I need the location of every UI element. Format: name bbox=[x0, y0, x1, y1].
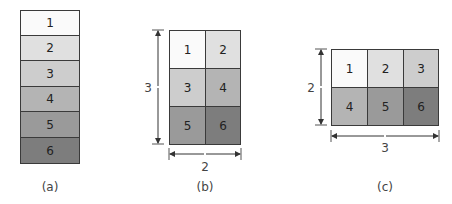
cell-b-3: 3 bbox=[169, 68, 206, 107]
cell-a-3: 3 bbox=[20, 60, 80, 87]
cell-a-5: 5 bbox=[20, 111, 80, 138]
cell-c-6: 6 bbox=[403, 87, 439, 126]
height-label-c: 2 bbox=[307, 81, 315, 95]
cell-b-2: 2 bbox=[205, 30, 241, 69]
cell-a-1: 1 bbox=[20, 10, 80, 36]
cell-b-1: 1 bbox=[169, 30, 206, 69]
width-label-b: 2 bbox=[201, 160, 209, 174]
cell-b-5: 5 bbox=[169, 106, 206, 145]
cell-c-2: 2 bbox=[367, 49, 404, 88]
cell-a-6: 6 bbox=[20, 137, 80, 164]
cell-c-3: 3 bbox=[403, 49, 439, 88]
cell-c-4: 4 bbox=[331, 87, 368, 126]
caption-b: (b) bbox=[197, 180, 214, 194]
cell-b-4: 4 bbox=[205, 68, 241, 107]
cell-a-4: 4 bbox=[20, 86, 80, 112]
cell-a-2: 2 bbox=[20, 35, 80, 61]
cell-b-6: 6 bbox=[205, 106, 241, 145]
cell-c-1: 1 bbox=[331, 49, 368, 88]
caption-c: (c) bbox=[377, 180, 393, 194]
width-label-c: 3 bbox=[381, 141, 389, 155]
cell-c-5: 5 bbox=[367, 87, 404, 126]
caption-a: (a) bbox=[42, 180, 59, 194]
height-label-b: 3 bbox=[144, 81, 152, 95]
